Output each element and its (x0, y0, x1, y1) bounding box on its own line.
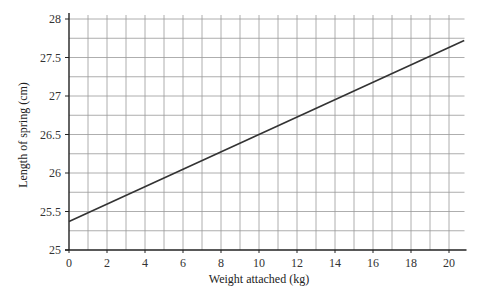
tick-labels: 024681012141618202525.52626.52727.528 (40, 12, 455, 270)
series-line (69, 41, 464, 222)
grid-lines (69, 15, 465, 250)
data-series (69, 41, 464, 222)
y-tick-label: 25 (49, 243, 61, 257)
x-tick-label: 10 (253, 256, 265, 270)
x-tick-label: 8 (218, 256, 224, 270)
y-tick-label: 26.5 (40, 128, 61, 142)
y-tick-label: 26 (49, 166, 61, 180)
y-tick-label: 27.5 (40, 51, 61, 65)
x-tick-label: 18 (405, 256, 417, 270)
y-tick-label: 27 (49, 89, 61, 103)
x-tick-label: 14 (329, 256, 341, 270)
x-tick-label: 12 (291, 256, 303, 270)
x-tick-label: 2 (104, 256, 110, 270)
x-axis-label: Weight attached (kg) (209, 272, 309, 286)
x-tick-label: 16 (367, 256, 379, 270)
x-tick-label: 4 (142, 256, 148, 270)
chart: 024681012141618202525.52626.52727.528 We… (0, 0, 477, 301)
y-tick-label: 25.5 (40, 205, 61, 219)
y-axis-label: Length of spring (cm) (16, 82, 30, 188)
x-tick-label: 20 (443, 256, 455, 270)
x-tick-label: 6 (180, 256, 186, 270)
x-tick-label: 0 (66, 256, 72, 270)
y-tick-label: 28 (49, 12, 61, 26)
